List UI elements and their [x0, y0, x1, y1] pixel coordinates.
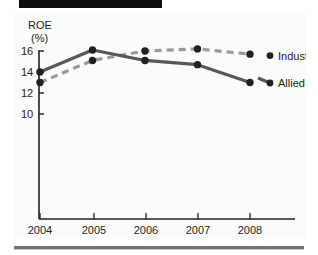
data-point [246, 79, 253, 86]
y-tick-label-14: 14 [21, 66, 33, 78]
chart-page: ROE (%) 16 14 12 10 [0, 0, 318, 255]
x-tick-label-2004: 2004 [28, 224, 52, 236]
legend-label-industry: Industry [278, 50, 306, 62]
x-tick-label-2008: 2008 [238, 224, 262, 236]
data-point [89, 46, 96, 53]
data-point [36, 68, 43, 75]
y-axis-unit: (%) [31, 32, 48, 44]
y-tick-label-12: 12 [21, 87, 33, 99]
data-point [141, 57, 148, 64]
y-axis-title: ROE [28, 19, 52, 31]
chart-panel: ROE (%) 16 14 12 10 [14, 12, 306, 238]
data-point [141, 47, 148, 54]
legend-marker-allied [267, 80, 274, 87]
x-tick-label-2005: 2005 [82, 224, 106, 236]
data-point [36, 79, 43, 86]
legend-label-allied: Allied [278, 77, 305, 89]
data-point [246, 50, 253, 57]
y-tick-label-16: 16 [21, 45, 33, 57]
x-tick-label-2007: 2007 [186, 224, 210, 236]
data-point [194, 45, 201, 52]
chart-background [14, 12, 306, 238]
footer-divider-shadow [14, 249, 304, 250]
header-banner-bar [19, 0, 162, 8]
data-point [89, 57, 96, 64]
data-point [194, 61, 201, 68]
roe-line-chart: ROE (%) 16 14 12 10 [14, 12, 306, 238]
legend-marker-industry [267, 52, 274, 59]
x-tick-label-2006: 2006 [134, 224, 158, 236]
y-tick-label-10: 10 [21, 108, 33, 120]
